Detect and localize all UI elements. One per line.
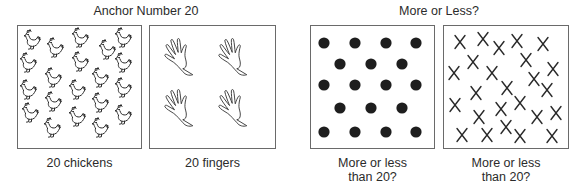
panel-fingers: [149, 25, 276, 149]
caption-dots: More or less than 20?: [310, 156, 435, 184]
panel-chickens: [17, 25, 142, 149]
panel-xs: [443, 25, 569, 149]
caption-xs-line1: More or less: [443, 156, 569, 170]
panel-dots: [310, 25, 435, 149]
caption-fingers: 20 fingers: [149, 156, 276, 170]
caption-dots-line1: More or less: [310, 156, 435, 170]
caption-dots-line2: than 20?: [310, 170, 435, 184]
caption-chickens: 20 chickens: [17, 156, 142, 170]
section-title-anchor: Anchor Number 20: [17, 4, 275, 18]
section-title-more-or-less: More or Less?: [310, 4, 568, 18]
caption-xs: More or less than 20?: [443, 156, 569, 184]
caption-xs-line2: than 20?: [443, 170, 569, 184]
